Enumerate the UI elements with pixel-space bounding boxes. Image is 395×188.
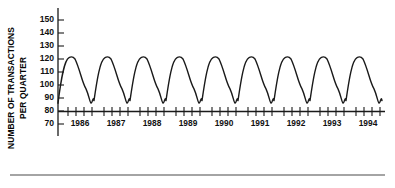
x-tick-label: 1993: [323, 118, 342, 128]
y-axis-title: NUMBER OF TRANSACTIONS PER QUARTER: [6, 27, 28, 149]
x-axis-year-labels: 1986 1987 1988 1989 1990 1991 1992 1993 …: [71, 118, 378, 128]
x-tick-label: 1990: [215, 118, 234, 128]
y-tick-label: 140: [40, 27, 55, 37]
x-tick-label: 1986: [71, 118, 90, 128]
x-tick-label: 1992: [287, 118, 306, 128]
y-axis-tick-labels: 150 140 130 120 110 100 90 80 70: [40, 14, 55, 128]
x-tick-label: 1994: [359, 118, 378, 128]
chart-container: NUMBER OF TRANSACTIONS PER QUARTER 150 1…: [0, 0, 395, 188]
y-tick-label: 100: [40, 79, 55, 89]
y-tick-label: 90: [44, 92, 54, 102]
y-tick-label: 110: [40, 66, 54, 76]
y-axis-title-line1: NUMBER OF TRANSACTIONS: [6, 27, 16, 149]
data-series-transactions: [58, 57, 382, 103]
y-tick-label: 150: [40, 14, 55, 24]
x-tick-label: 1989: [179, 118, 198, 128]
y-tick-label: 80: [44, 105, 54, 115]
y-tick-label: 70: [44, 118, 54, 128]
x-tick-label: 1991: [251, 118, 270, 128]
data-line: [58, 57, 382, 103]
transactions-per-quarter-line-chart: NUMBER OF TRANSACTIONS PER QUARTER 150 1…: [0, 0, 395, 188]
x-tick-label: 1988: [143, 118, 162, 128]
y-tick-label: 120: [40, 53, 55, 63]
x-tick-label: 1987: [107, 118, 126, 128]
y-axis-title-line2: PER QUARTER: [18, 57, 28, 119]
y-tick-label: 130: [40, 40, 55, 50]
